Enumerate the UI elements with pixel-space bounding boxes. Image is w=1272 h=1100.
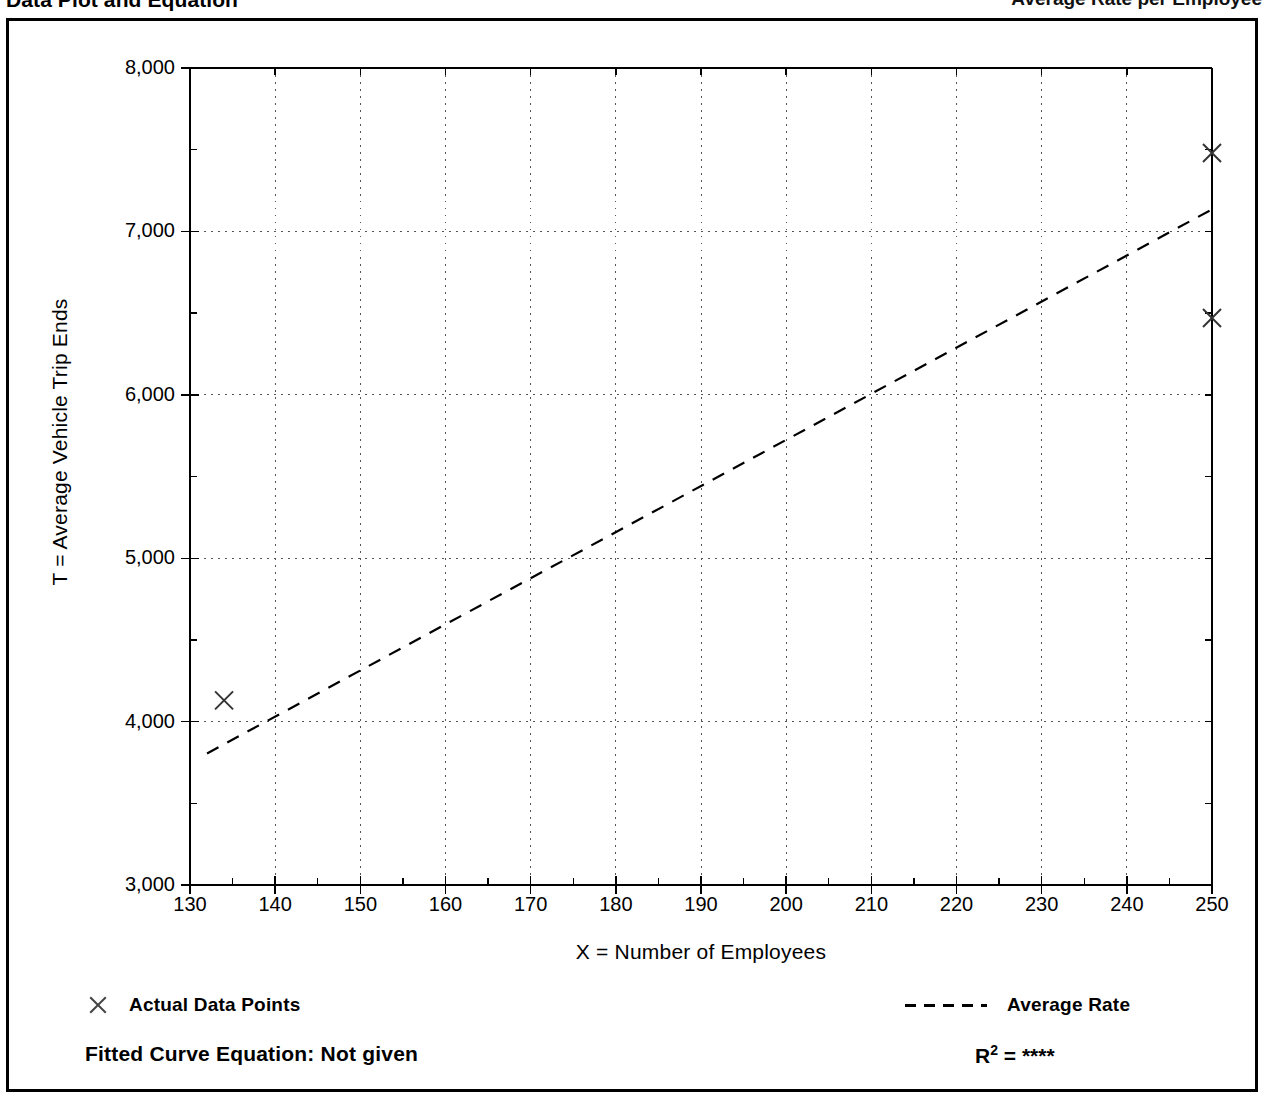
x-tick-label: 230 bbox=[1007, 893, 1077, 915]
equation-row: Fitted Curve Equation: Not given R2 = **… bbox=[0, 1042, 1252, 1082]
x-tick-label: 240 bbox=[1092, 893, 1162, 915]
page-subtitle: Average Rate per Employee bbox=[1011, 0, 1262, 10]
x-tick-label: 160 bbox=[411, 893, 481, 915]
x-axis-title: X = Number of Employees bbox=[190, 940, 1212, 964]
x-marker-icon bbox=[85, 992, 111, 1018]
x-axis-tick-labels: 130140150160170180190200210220230240250 bbox=[0, 893, 1272, 923]
r-squared-equals: = bbox=[998, 1044, 1022, 1067]
x-tick-label: 180 bbox=[581, 893, 651, 915]
chart-legend: Actual Data Points Average Rate bbox=[0, 990, 1252, 1024]
x-tick-label: 150 bbox=[325, 893, 395, 915]
x-tick-label: 190 bbox=[666, 893, 736, 915]
legend-label-actual-data-points: Actual Data Points bbox=[129, 994, 300, 1016]
r-squared-exponent: 2 bbox=[990, 1042, 998, 1058]
y-axis-title: T = Average Vehicle Trip Ends bbox=[48, 192, 72, 692]
x-tick-label: 210 bbox=[836, 893, 906, 915]
r-squared-symbol: R bbox=[975, 1044, 990, 1067]
y-tick-label: 3,000 bbox=[85, 874, 175, 894]
r-squared-value: R2 = **** bbox=[975, 1042, 1055, 1068]
dashed-line-icon bbox=[905, 1004, 987, 1007]
x-tick-label: 140 bbox=[240, 893, 310, 915]
y-axis-tick-labels: 3,0004,0005,0006,0007,0008,000 bbox=[75, 0, 175, 1100]
y-tick-label: 4,000 bbox=[85, 711, 175, 731]
figure-frame bbox=[6, 18, 1258, 1092]
page-header: Data Plot and Equation Average Rate per … bbox=[0, 0, 1272, 16]
legend-label-average-rate: Average Rate bbox=[1007, 994, 1130, 1016]
fitted-curve-equation: Fitted Curve Equation: Not given bbox=[85, 1042, 418, 1066]
x-tick-label: 200 bbox=[751, 893, 821, 915]
x-tick-label: 170 bbox=[496, 893, 566, 915]
y-tick-label: 7,000 bbox=[85, 220, 175, 240]
x-tick-label: 220 bbox=[922, 893, 992, 915]
legend-item-average-rate[interactable]: Average Rate bbox=[905, 990, 1130, 1020]
x-tick-label: 130 bbox=[155, 893, 225, 915]
x-tick-label: 250 bbox=[1177, 893, 1247, 915]
y-tick-label: 6,000 bbox=[85, 384, 175, 404]
legend-item-actual-data-points[interactable]: Actual Data Points bbox=[85, 990, 300, 1020]
r-squared-stars: **** bbox=[1022, 1044, 1055, 1067]
y-tick-label: 5,000 bbox=[85, 547, 175, 567]
y-tick-label: 8,000 bbox=[85, 57, 175, 77]
